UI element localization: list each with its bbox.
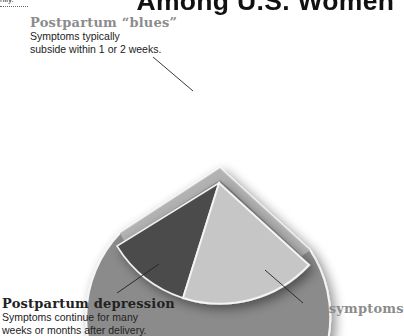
label-depression-line1: Symptoms continue for many — [2, 311, 175, 324]
label-no-symptoms-title: No symptoms — [303, 301, 404, 316]
label-blues-title: Postpartum “blues” — [30, 15, 177, 30]
leader-line-blues — [153, 57, 193, 91]
label-depression-title: Postpartum depression — [2, 296, 175, 311]
label-blues-line2: subside within 1 or 2 weeks. — [30, 43, 177, 56]
label-depression-line2: weeks or months after delivery. — [2, 324, 175, 336]
label-blues-line1: Symptoms typically — [30, 30, 177, 43]
label-no-symptoms: No symptoms — [303, 301, 404, 316]
label-blues: Postpartum “blues” Symptoms typically su… — [30, 15, 177, 56]
label-depression: Postpartum depression Symptoms continue … — [2, 296, 175, 336]
